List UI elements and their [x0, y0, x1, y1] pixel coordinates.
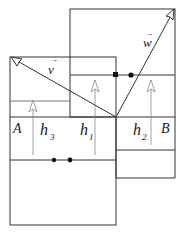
rectangles-vector-diagram: → v → w A B h 3 h 1 h 2: [0, 0, 183, 236]
vector-w: [116, 9, 174, 117]
label-w: w: [143, 35, 152, 50]
vector-v: [11, 57, 116, 117]
label-h2-sub: 2: [142, 132, 147, 142]
label-v: v: [48, 62, 54, 77]
label-A: A: [12, 121, 22, 136]
label-h1: h: [80, 121, 88, 138]
label-h2: h: [133, 121, 141, 138]
left-box: [10, 57, 116, 225]
label-h3-sub: 3: [49, 132, 55, 142]
label-h1-sub: 1: [89, 132, 94, 142]
label-h3: h: [40, 121, 48, 138]
right-box: [70, 9, 175, 178]
label-B: B: [161, 121, 170, 136]
